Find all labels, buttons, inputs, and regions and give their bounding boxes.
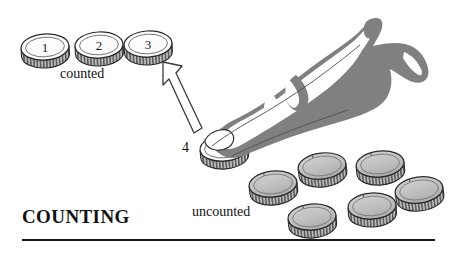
uncounted-coin-5[interactable]: [347, 191, 397, 228]
coin-number-3: 3: [145, 37, 152, 52]
uncounted-coin-2[interactable]: [297, 150, 349, 190]
title-underline-rule: [22, 239, 435, 241]
counted-label: counted: [60, 66, 104, 82]
coin-number-2: 2: [96, 38, 103, 53]
pointing-hand: [205, 18, 429, 158]
figure-title: COUNTING: [22, 206, 130, 228]
uncounted-coin-6[interactable]: [393, 174, 445, 214]
uncounted-coin-group: [248, 149, 446, 240]
uncounted-coin-1[interactable]: [248, 169, 299, 208]
uncounted-coin-3[interactable]: [287, 202, 338, 240]
coin-number-1: 1: [42, 40, 49, 55]
counting-figure: 1 2 3 counted 4 uncounted COUNTING: [0, 0, 454, 255]
move-to-counted-arrow: [163, 62, 202, 133]
uncounted-label: uncounted: [192, 204, 250, 220]
uncounted-coin-4[interactable]: [355, 149, 406, 188]
current-coin-number-label: 4: [182, 140, 189, 156]
